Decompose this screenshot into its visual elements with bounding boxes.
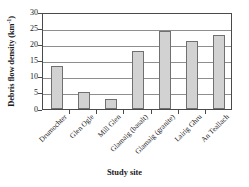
y-axis-tick-labels: 051015202530 [16, 8, 38, 112]
y-axis-title: Debris flow density (km-1) [6, 6, 17, 116]
y-axis-tick-mark [38, 61, 42, 62]
y-axis-tick-label: 5 [16, 89, 38, 97]
bar [105, 99, 117, 109]
y-axis-tick-label: 30 [16, 9, 38, 17]
y-axis-tick-mark [38, 13, 42, 14]
x-axis-category-label: An Teallach [200, 113, 231, 144]
bar [132, 51, 144, 109]
y-axis-tick-mark [38, 45, 42, 46]
x-axis-category-label: Drumochter [37, 113, 68, 144]
y-axis-tick-label: 20 [16, 41, 38, 49]
y-axis-tick-mark [38, 29, 42, 30]
bar [159, 31, 171, 109]
plot-area [42, 13, 232, 110]
x-axis-category-labels: DrumochterGlen OgleMill GlenGlamaig (bas… [42, 111, 232, 161]
x-axis-category-label: Glen Ogle [68, 113, 95, 140]
bar-series [43, 14, 231, 109]
bar [78, 92, 90, 109]
y-axis-tick-label: 0 [16, 106, 38, 114]
y-axis-tick-label: 10 [16, 73, 38, 81]
y-axis-tick-label: 15 [16, 57, 38, 65]
y-axis-tick-mark [38, 93, 42, 94]
y-axis-tick-label: 25 [16, 25, 38, 33]
x-axis-title: Study site [0, 168, 249, 177]
x-axis-category-label: Lairig Ghru [173, 113, 203, 143]
bar [51, 66, 63, 109]
bar [213, 35, 225, 108]
y-axis-title-superscript: -1 [6, 19, 12, 24]
debris-flow-density-bar-chart: Debris flow density (km-1) 051015202530 … [0, 0, 249, 187]
y-axis-tick-mark [38, 77, 42, 78]
bar [186, 41, 198, 109]
